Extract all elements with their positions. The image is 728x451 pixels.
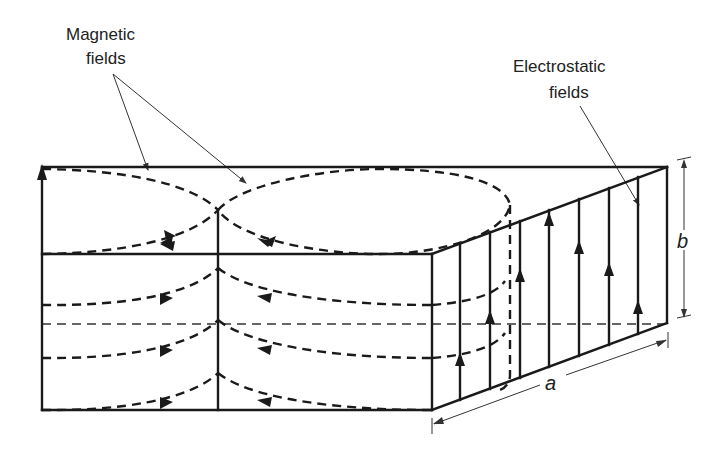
dim-a-label: a (545, 372, 556, 394)
magnetic-loops-top (42, 169, 510, 254)
electrostatic-lines (455, 177, 643, 400)
magnetic-lines-front (42, 205, 510, 410)
magnetic-fields-label: Magnetic fields (66, 25, 135, 68)
electrostatic-label-line2: fields (549, 83, 589, 102)
electrostatic-label-line1: Electrostatic (513, 57, 606, 76)
magnetic-label-line2: fields (86, 49, 126, 68)
dim-b-label: b (677, 230, 688, 252)
dimension-b: b (677, 157, 691, 318)
waveguide-diagram: Magnetic fields Electrostatic fields (0, 0, 728, 451)
electrostatic-fields-label: Electrostatic fields (513, 57, 606, 102)
magnetic-label-line1: Magnetic (66, 25, 135, 44)
